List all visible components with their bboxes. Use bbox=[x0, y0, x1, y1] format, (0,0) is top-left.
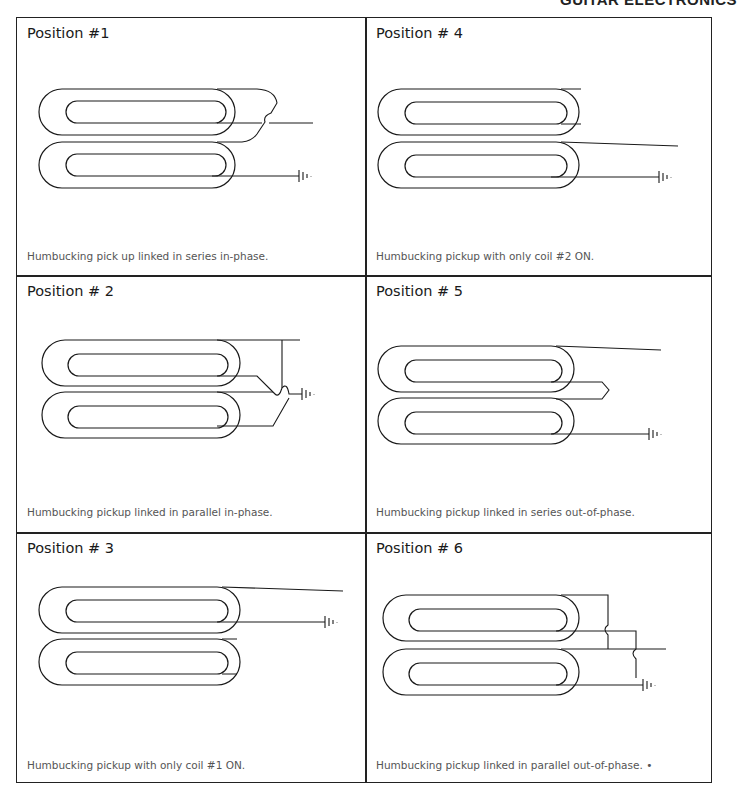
position-caption: Humbucking pickup with only coil #1 ON. bbox=[27, 759, 245, 771]
ground-symbol-icon bbox=[325, 616, 337, 628]
position-caption: Humbucking pickup linked in parallel in-… bbox=[27, 506, 273, 518]
coil-1-icon bbox=[39, 587, 240, 633]
ground-symbol-icon bbox=[302, 388, 314, 400]
header-brand: GUITAR ELECTRONICS bbox=[560, 0, 737, 8]
series-out-of-phase-diagram bbox=[366, 276, 713, 532]
single-coil-1-diagram bbox=[17, 533, 365, 784]
wiring-positions-grid: Position #1 Humbucking pick up linked in… bbox=[16, 17, 712, 783]
position-1-panel: Position #1 Humbucking pick up linked in… bbox=[17, 18, 365, 275]
position-6-panel: Position # 6 Humbucking pickup linked in… bbox=[366, 533, 713, 784]
position-2-panel: Position # 2 Humbucking pickup linked in… bbox=[17, 276, 365, 532]
coil-2-icon bbox=[39, 639, 240, 685]
ground-symbol-icon bbox=[649, 428, 661, 440]
coil-1-icon bbox=[383, 595, 579, 641]
position-caption: Humbucking pickup with only coil #2 ON. bbox=[376, 250, 594, 262]
ground-symbol-icon bbox=[643, 679, 655, 691]
position-caption: Humbucking pickup linked in parallel out… bbox=[376, 759, 652, 771]
coil-2-icon bbox=[378, 398, 574, 444]
coil-2-icon bbox=[383, 649, 579, 695]
coil-2-icon bbox=[39, 142, 235, 188]
position-4-panel: Position # 4 Humbucking pickup with only… bbox=[366, 18, 713, 275]
coil-2-icon bbox=[42, 392, 240, 438]
parallel-in-phase-diagram bbox=[17, 276, 365, 532]
coil-1-icon bbox=[39, 89, 235, 135]
position-5-panel: Position # 5 Humbucking pickup linked in… bbox=[366, 276, 713, 532]
single-coil-2-diagram bbox=[366, 18, 713, 275]
parallel-out-of-phase-diagram bbox=[366, 533, 713, 784]
coil-1-icon bbox=[378, 89, 579, 135]
ground-symbol-icon bbox=[299, 170, 311, 182]
series-in-phase-diagram bbox=[17, 18, 365, 275]
position-caption: Humbucking pick up linked in series in-p… bbox=[27, 250, 268, 262]
coil-1-icon bbox=[42, 340, 240, 386]
ground-symbol-icon bbox=[659, 171, 671, 183]
coil-2-icon bbox=[378, 142, 579, 188]
position-3-panel: Position # 3 Humbucking pickup with only… bbox=[17, 533, 365, 784]
position-caption: Humbucking pickup linked in series out-o… bbox=[376, 506, 635, 518]
coil-1-icon bbox=[378, 346, 574, 392]
